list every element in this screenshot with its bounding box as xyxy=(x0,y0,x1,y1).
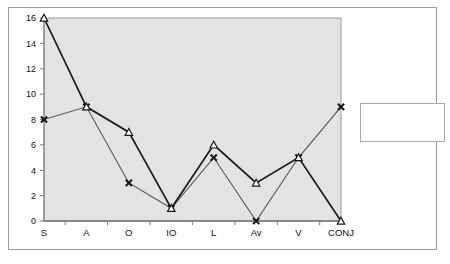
y-tick-label: 16 xyxy=(26,13,36,23)
y-tick-label: 0 xyxy=(31,216,36,226)
plot-area-background xyxy=(44,18,341,221)
x-tick-label: Av xyxy=(251,227,262,238)
y-tick-label: 4 xyxy=(31,166,36,176)
y-tick-label: 6 xyxy=(31,140,36,150)
x-axis-labels: S A O IO L Av V CONJ xyxy=(41,227,354,238)
y-tick-label: 12 xyxy=(26,64,36,74)
y-axis-labels: 0 2 4 6 8 10 12 14 16 xyxy=(26,13,36,226)
x-tick-label: CONJ xyxy=(328,227,354,238)
y-tick-label: 2 xyxy=(31,191,36,201)
x-tick-label: A xyxy=(83,227,90,238)
chart-figure: 0 2 4 6 8 10 12 14 16 xyxy=(0,0,450,264)
legend-box xyxy=(360,103,445,142)
x-tick-label: IO xyxy=(166,227,176,238)
x-tick-label: L xyxy=(211,227,216,238)
y-tick-label: 8 xyxy=(31,115,36,125)
x-tick-label: V xyxy=(295,227,302,238)
y-tick-label: 10 xyxy=(26,89,36,99)
x-tick-label: S xyxy=(41,227,47,238)
y-tick-label: 14 xyxy=(26,39,36,49)
x-axis-ticks xyxy=(65,221,320,225)
x-tick-label: O xyxy=(125,227,132,238)
